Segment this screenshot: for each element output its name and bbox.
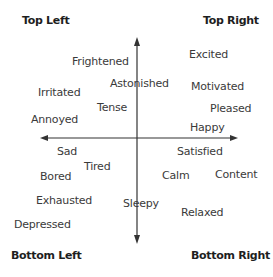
arrow-right-icon [230,135,238,141]
axes [0,0,273,277]
emotion-bored: Bored [40,170,71,183]
emotion-relaxed: Relaxed [181,206,223,219]
emotion-motivated: Motivated [191,80,244,93]
arrow-down-icon [134,235,140,244]
corner-label-top-right: Top Right [203,14,259,27]
emotion-calm: Calm [162,169,189,182]
arrow-left-icon [40,135,48,141]
emotion-excited: Excited [189,48,228,61]
vertical-axis [134,37,140,244]
emotion-depressed: Depressed [14,218,71,231]
emotion-annoyed: Annoyed [31,113,78,126]
emotion-exhausted: Exhausted [36,194,92,207]
emotion-sad: Sad [57,145,77,158]
emotion-astonished: Astonished [110,77,169,90]
arrow-up-icon [134,37,140,46]
emotion-irritated: Irritated [38,86,80,99]
emotion-tired: Tired [84,160,110,173]
emotion-pleased: Pleased [210,102,251,115]
emotion-tense: Tense [97,101,127,114]
emotion-sleepy: Sleepy [123,197,159,210]
emotion-frightened: Frightened [72,55,129,68]
emotion-content: Content [215,168,257,181]
horizontal-axis [40,135,238,141]
corner-label-bottom-right: Bottom Right [191,249,270,262]
corner-label-bottom-left: Bottom Left [11,249,82,262]
emotion-satisfied: Satisfied [177,145,223,158]
emotion-happy: Happy [190,121,225,134]
corner-label-top-left: Top Left [22,14,69,27]
